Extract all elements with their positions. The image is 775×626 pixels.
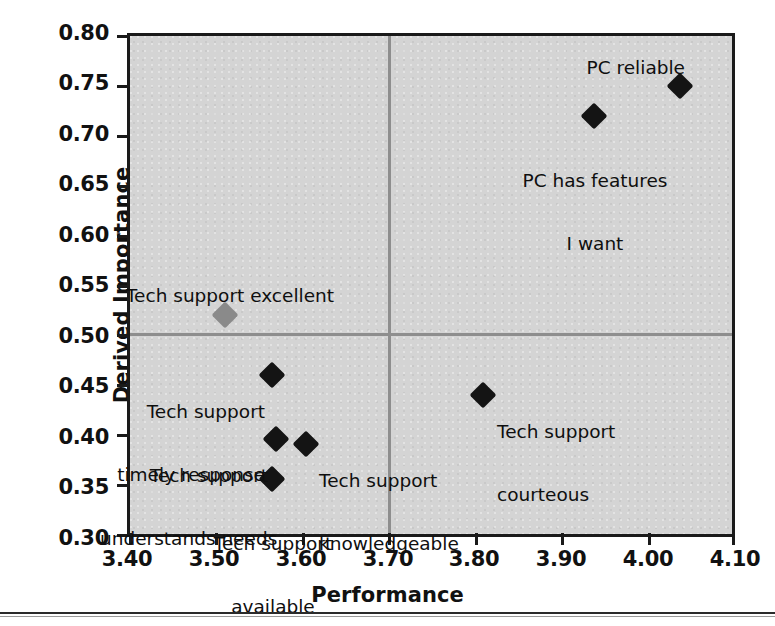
data-label-pc-has-features-i-want: PC has features I want	[500, 130, 690, 296]
y-tick-label-0.55: 0.55	[4, 273, 109, 297]
data-label-tech-support-courteous: Tech support courteous	[497, 381, 697, 547]
data-label-tech-support-available: Tech support available	[182, 493, 364, 626]
y-tick-label-0.65: 0.65	[4, 172, 109, 196]
data-label-pc-has-features-line1: PC has features	[500, 171, 690, 192]
data-label-available-line1: Tech support	[182, 534, 364, 555]
data-label-available-line2: available	[182, 597, 364, 618]
y-tick-label-0.50: 0.50	[4, 324, 109, 348]
y-tick-label-0.70: 0.70	[4, 122, 109, 146]
y-tick-label-0.35: 0.35	[4, 475, 109, 499]
data-label-courteous-line1: Tech support	[497, 422, 697, 443]
y-tick-0.60	[117, 235, 129, 238]
y-tick-0.50	[117, 334, 129, 337]
x-tick-4.10	[732, 533, 735, 545]
data-label-courteous-line2: courteous	[497, 485, 697, 506]
footer-divider-shadow	[0, 616, 775, 617]
scatter-chart: 0.80 0.75 0.70 0.65 0.60 0.55 0.50 0.45 …	[0, 0, 775, 626]
data-label-knowledgeable-line1: Tech support	[319, 471, 519, 492]
y-tick-0.65	[117, 185, 129, 188]
data-label-timely-line1: Tech support	[105, 402, 265, 423]
y-tick-label-0.60: 0.60	[4, 223, 109, 247]
y-tick-label-0.40: 0.40	[4, 425, 109, 449]
data-point-pc-has-features-i-want[interactable]	[581, 103, 608, 130]
y-tick-0.70	[117, 135, 129, 138]
y-tick-0.75	[117, 85, 129, 88]
quadrant-line-horizontal	[130, 333, 732, 336]
data-point-tech-support-courteous[interactable]	[470, 382, 497, 409]
y-tick-label-0.80: 0.80	[4, 21, 109, 45]
data-label-pc-has-features-line2: I want	[500, 234, 690, 255]
y-tick-label-0.75: 0.75	[4, 71, 109, 95]
data-label-pc-reliable: PC reliable	[550, 58, 685, 79]
plot-area: PC reliable PC has features I want Tech …	[127, 33, 735, 537]
footer-divider	[0, 612, 775, 614]
y-tick-0.80	[117, 35, 129, 38]
data-label-tech-support-excellent: Tech support excellent	[100, 286, 360, 307]
y-tick-label-0.45: 0.45	[4, 374, 109, 398]
x-tick-label-4.10: 4.10	[675, 547, 775, 571]
data-label-understands-line1: Tech support	[100, 466, 268, 487]
data-point-tech-support-knowledgeable[interactable]	[293, 431, 320, 458]
